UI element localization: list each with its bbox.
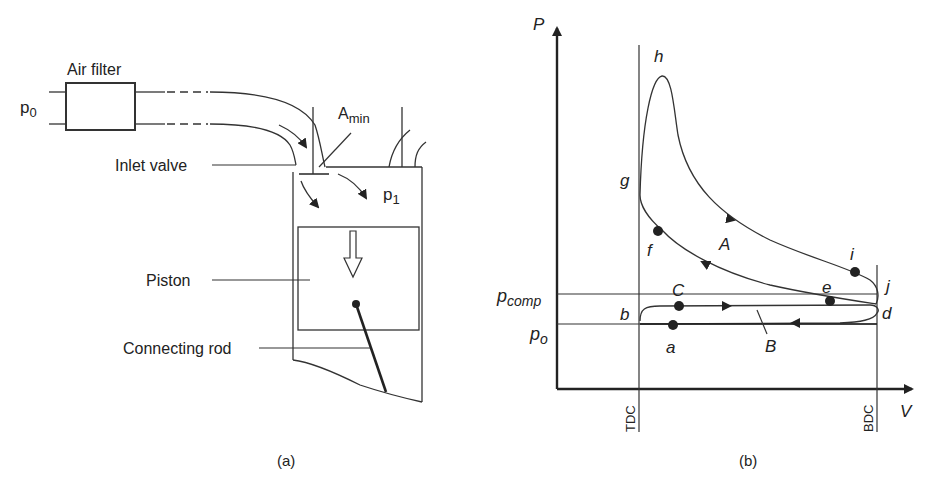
x-axis-label: V	[900, 402, 913, 421]
y-axis-label: P	[533, 15, 545, 34]
point-f	[653, 226, 663, 236]
point-a	[668, 320, 678, 330]
label-g: g	[620, 171, 630, 190]
label-j: j	[884, 277, 891, 296]
diagram-canvas: Air filter p0 Amin Inlet valve p1 Piston…	[0, 0, 939, 495]
engine-intake-schematic: Air filter p0 Amin Inlet valve p1 Piston…	[20, 61, 426, 469]
p1-label: p1	[383, 185, 400, 207]
label-h: h	[654, 47, 663, 66]
p0-label: p0	[20, 98, 37, 120]
label-f: f	[647, 241, 654, 260]
tdc-label: TDC	[623, 405, 638, 432]
a-min-label: Amin	[338, 105, 370, 126]
caption-b: (b)	[739, 452, 757, 469]
p-comp-label: pcomp	[496, 286, 541, 309]
p-o-label: po	[529, 324, 548, 347]
region-b-label: B	[765, 337, 776, 356]
inlet-valve-label: Inlet valve	[115, 157, 187, 174]
point-i	[850, 267, 860, 277]
label-d: d	[882, 304, 892, 323]
expansion-curve	[640, 76, 878, 304]
label-i: i	[850, 245, 855, 264]
caption-a: (a)	[277, 452, 295, 469]
label-e: e	[822, 278, 831, 297]
region-a-label: A	[718, 235, 730, 254]
point-c	[674, 301, 684, 311]
air-filter-label: Air filter	[67, 61, 122, 78]
bdc-label: BDC	[861, 405, 876, 432]
piston-label: Piston	[146, 272, 190, 289]
piston-motion-arrow-icon	[344, 231, 362, 277]
label-a: a	[666, 338, 675, 357]
label-b: b	[620, 305, 629, 324]
point-e	[825, 296, 835, 306]
label-c: C	[672, 281, 685, 300]
connecting-rod-label: Connecting rod	[123, 340, 232, 357]
pv-diagram: P V pcomp po TDC BDC h g f A i j e C b d…	[496, 15, 913, 469]
air-filter-box	[66, 83, 135, 130]
